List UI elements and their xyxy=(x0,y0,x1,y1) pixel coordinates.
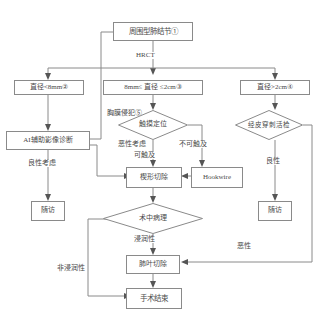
node-hookwire: Hookwire xyxy=(191,167,243,188)
node-biopsy: 经皮穿刺活检 xyxy=(235,110,303,140)
node-surgery-end: 手术结束 xyxy=(126,288,182,309)
node-followup-left-label: 随访 xyxy=(41,207,55,214)
edge-label-invasive: 浸润性 xyxy=(133,236,156,243)
edge-label-malignant-suspect: 恶性考虑 xyxy=(117,141,147,148)
edge-label-non-invasive: 非浸润性 xyxy=(56,265,86,272)
flowchart-canvas: 周围型肺结节① HRCT 直径<8mm② 8mm≤ 直径 ≤2cm③ 直径>2c… xyxy=(0,0,325,328)
edge-label-benign-suspect: 良性考虑 xyxy=(27,160,57,167)
node-ai-diagnosis: AI辅助影像诊断 xyxy=(6,131,90,150)
node-palpation-label: 触摸定位 xyxy=(139,121,167,128)
node-size-mid-label: 8mm≤ 直径 ≤2cm③ xyxy=(124,84,182,91)
node-size-small-label: 直径<8mm② xyxy=(30,84,68,91)
edge-label-benign: 良性 xyxy=(265,158,281,165)
node-followup-left: 随访 xyxy=(31,201,65,221)
node-surgery-end-label: 手术结束 xyxy=(140,295,168,303)
node-intraop-pathology: 术中病理 xyxy=(103,203,203,234)
node-size-large-label: 直径>2cm④ xyxy=(257,84,293,91)
edge-label-palpable: 可触及 xyxy=(133,152,156,159)
node-followup-right-label: 随访 xyxy=(268,207,282,214)
node-root-label: 周围型肺结节① xyxy=(129,28,178,36)
node-followup-right: 随访 xyxy=(258,201,292,221)
edge-label-hrct: HRCT xyxy=(135,52,156,59)
node-wedge-resection-label: 楔形切除 xyxy=(140,174,168,181)
edge-label-malignant: 恶性 xyxy=(236,243,252,250)
node-intraop-pathology-label: 术中病理 xyxy=(139,215,167,222)
node-wedge-resection: 楔形切除 xyxy=(126,167,182,188)
node-lobectomy-label: 肺叶切除 xyxy=(139,261,167,268)
node-palpation: 触摸定位 xyxy=(118,110,188,140)
node-size-mid: 8mm≤ 直径 ≤2cm③ xyxy=(103,80,203,95)
node-root: 周围型肺结节① xyxy=(113,22,193,41)
node-size-small: 直径<8mm② xyxy=(14,80,84,95)
node-ai-diagnosis-label: AI辅助影像诊断 xyxy=(23,137,72,144)
node-lobectomy: 肺叶切除 xyxy=(126,255,180,274)
node-hookwire-label: Hookwire xyxy=(203,174,231,181)
node-biopsy-label: 经皮穿刺活检 xyxy=(248,122,290,129)
node-size-large: 直径>2cm④ xyxy=(240,80,310,95)
edge-label-not-palpable: 不可触及 xyxy=(178,141,208,148)
